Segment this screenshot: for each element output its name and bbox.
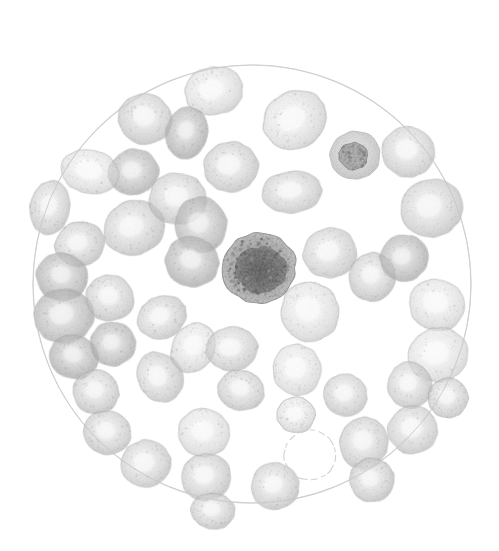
cell-lymphocyte-8 — [330, 131, 380, 179]
figure-root: Abb. 2. — [0, 0, 499, 551]
microscope-field-illustration — [0, 0, 499, 551]
